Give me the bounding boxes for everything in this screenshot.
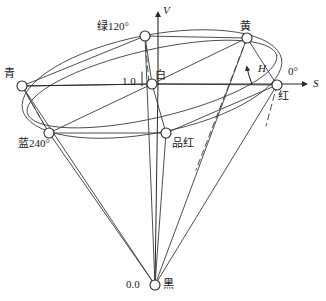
spoke-white-magenta — [152, 84, 166, 133]
node-label-yellow: 黄 — [240, 21, 251, 32]
cone-edge-cyan — [22, 86, 155, 285]
node-cyan — [17, 81, 27, 91]
value-label-top: 1.0 — [122, 76, 136, 87]
node-label-magenta: 品红 — [172, 138, 194, 149]
node-red — [272, 80, 282, 90]
hsv-cone-figure: 绿120° 黄 青 白 红 蓝240° 品红 黑 1.0 0.0 0° V S … — [0, 0, 326, 301]
axis-label-h: H — [258, 63, 266, 74]
hue-zero-degree-label: 0° — [288, 66, 298, 77]
node-label-green: 绿120° — [97, 21, 129, 32]
node-green — [140, 31, 150, 41]
node-label-black: 黑 — [163, 279, 174, 290]
axis-label-v: V — [163, 5, 170, 16]
spoke-white-blue — [49, 84, 152, 133]
hex-edge-green-yellow — [145, 36, 247, 38]
node-label-red: 红 — [278, 91, 289, 102]
node-magenta — [161, 128, 171, 138]
node-label-white: 白 — [155, 70, 166, 81]
node-label-cyan: 青 — [4, 68, 15, 79]
axis-label-s: S — [313, 78, 319, 89]
hidden-edge-yellow-apex — [196, 38, 247, 170]
value-label-bottom: 0.0 — [126, 279, 140, 290]
hsv-cone-drawing — [0, 0, 326, 301]
cone-edge-yellow — [155, 38, 247, 285]
h-angle-arc — [247, 68, 252, 84]
hex-edge-red-magenta — [166, 85, 277, 133]
node-black — [150, 280, 160, 290]
cone-edge-red — [155, 85, 277, 285]
cone-edge-blue — [49, 133, 155, 285]
node-label-blue: 蓝240° — [18, 138, 50, 149]
hidden-edge-red-rim — [266, 85, 277, 126]
node-yellow — [242, 33, 252, 43]
